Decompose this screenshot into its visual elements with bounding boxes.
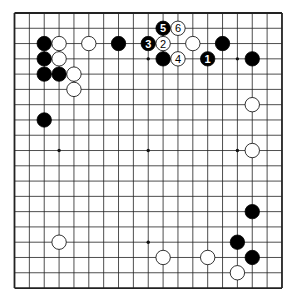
white-stone <box>245 143 259 157</box>
white-stone-move-4: 4 <box>171 52 185 66</box>
white-stone <box>52 36 66 50</box>
go-board: 563241 <box>0 0 296 300</box>
black-stone <box>37 52 51 66</box>
black-stone <box>156 52 170 66</box>
white-stone-move-6: 6 <box>171 21 185 35</box>
black-stone-move-5: 5 <box>156 21 170 35</box>
move-number: 6 <box>175 22 181 34</box>
star-point <box>147 57 150 60</box>
white-stone <box>52 235 66 249</box>
white-stone <box>230 266 244 280</box>
star-point <box>147 149 150 152</box>
move-number: 4 <box>175 53 181 65</box>
black-stone <box>245 52 259 66</box>
star-point <box>236 149 239 152</box>
black-stone <box>52 67 66 81</box>
white-stone <box>52 52 66 66</box>
black-stone <box>37 36 51 50</box>
move-number: 5 <box>160 22 166 34</box>
black-stone-move-1: 1 <box>200 52 214 66</box>
star-point <box>236 57 239 60</box>
black-stone <box>111 36 125 50</box>
move-number: 3 <box>145 38 151 50</box>
black-stone <box>37 67 51 81</box>
white-stone <box>200 250 214 264</box>
white-stone <box>245 97 259 111</box>
black-stone-move-3: 3 <box>141 36 155 50</box>
star-point <box>57 149 60 152</box>
black-stone <box>215 36 229 50</box>
white-stone <box>82 36 96 50</box>
black-stone <box>37 113 51 127</box>
white-stone <box>186 36 200 50</box>
black-stone <box>245 250 259 264</box>
move-number: 1 <box>205 53 211 65</box>
white-stone-move-2: 2 <box>156 36 170 50</box>
white-stone <box>67 67 81 81</box>
star-point <box>147 241 150 244</box>
black-stone <box>230 235 244 249</box>
black-stone <box>245 204 259 218</box>
white-stone <box>67 82 81 96</box>
white-stone <box>156 250 170 264</box>
move-number: 2 <box>160 38 166 50</box>
